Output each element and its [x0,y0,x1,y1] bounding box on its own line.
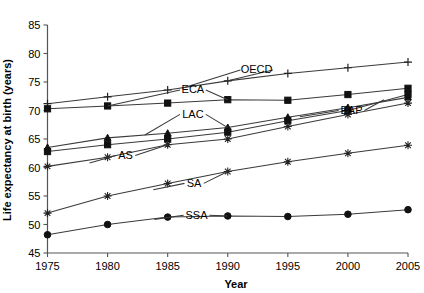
marker-circle [44,231,51,238]
marker-star [284,158,292,166]
series-label-as: AS [118,149,133,161]
marker-plus [404,58,412,66]
series-line-sa [48,145,409,213]
leader-right-ssa [209,215,227,216]
y-tick-label: 80 [28,48,40,60]
marker-square [345,91,351,97]
life-expectancy-line-chart: 4550556065707580851975198019851990199520… [0,0,424,293]
series-label-eap: EAP [341,104,363,116]
series-label-eca: ECA [182,83,205,95]
marker-square [225,129,231,135]
series-label-oecd: OECD [241,63,273,75]
marker-star [284,122,292,130]
chart-page: 4550556065707580851975198019851990199520… [0,0,424,293]
series-labels: OECDECALACEAPASSASSA [118,63,362,220]
leader-left-lac [145,114,180,135]
marker-circle [285,213,292,220]
x-tick-label: 2005 [396,260,420,272]
series-label-ssa: SSA [185,209,208,221]
y-axis-title: Life expectancy at birth (years) [1,59,13,221]
x-tick-label: 2000 [336,260,360,272]
leader-right-lac [206,114,228,127]
y-tick-label: 75 [28,76,40,88]
marker-circle [405,206,412,213]
x-axis-title: Year [224,278,248,290]
x-tick-label: 1985 [155,260,179,272]
label-leader-lines [90,70,384,219]
tick-labels: 4550556065707580851975198019851990199520… [28,19,420,272]
marker-square [44,148,50,154]
marker-square [44,106,50,112]
y-tick-label: 65 [28,133,40,145]
y-tick-label: 50 [28,219,40,231]
marker-square [165,100,171,106]
marker-star [44,162,52,170]
y-tick-label: 70 [28,105,40,117]
x-tick-label: 1975 [35,260,59,272]
marker-star [404,99,412,107]
marker-square [405,91,411,97]
marker-star [224,135,232,143]
series-label-lac: LAC [182,108,203,120]
marker-square [104,142,110,148]
marker-plus [104,93,112,101]
marker-star [44,209,52,217]
y-tick-label: 60 [28,162,40,174]
marker-square [405,85,411,91]
marker-star [404,141,412,149]
marker-star [104,192,112,200]
marker-circle [104,221,111,228]
marker-plus [344,64,352,72]
y-tick-label: 55 [28,190,40,202]
leader-right-sa [204,171,228,183]
marker-circle [345,211,352,218]
x-tick-label: 1990 [216,260,240,272]
y-tick-label: 85 [28,19,40,31]
marker-star [344,149,352,157]
x-tick-label: 1980 [95,260,119,272]
x-tick-label: 1995 [276,260,300,272]
marker-square [285,97,291,103]
marker-plus [284,69,292,77]
leader-right-eca [206,90,228,100]
y-tick-label: 45 [28,247,40,259]
series-label-sa: SA [187,177,202,189]
data-series [44,58,413,238]
